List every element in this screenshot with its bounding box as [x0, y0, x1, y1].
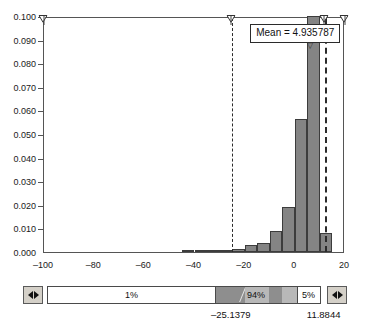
arrow-right-icon: [338, 291, 343, 299]
y-axis: 0.0000.0100.0200.0300.0400.0500.0600.070…: [0, 10, 36, 260]
lower-limit-line[interactable]: [232, 18, 233, 252]
histogram-bar: [270, 231, 283, 252]
arrow-left-icon: [28, 291, 33, 299]
handle-stem: [43, 16, 44, 25]
slider-segment-label: 94%: [247, 290, 265, 301]
handle-right-bound[interactable]: [340, 9, 349, 16]
histogram-bar: [257, 243, 270, 252]
slider-increment-button[interactable]: [327, 286, 347, 304]
histogram-bar: [207, 250, 220, 252]
plot-area[interactable]: [43, 17, 344, 253]
x-tick-label: –40: [186, 260, 201, 270]
slider-segment-divider[interactable]: [297, 287, 298, 303]
y-tick-label: 0.020: [0, 201, 36, 211]
upper-limit-value: 11.8844: [307, 309, 341, 320]
y-tick-label: 0.100: [0, 12, 36, 22]
mean-marker-glyph: ▽: [307, 42, 313, 50]
percentile-slider[interactable]: 1%94%5%: [0, 286, 372, 306]
histogram-bar: [295, 119, 308, 252]
histogram-bar: [245, 245, 258, 252]
limit-values: –25.137911.8844: [0, 309, 372, 325]
histogram-bar: [232, 249, 245, 252]
upper-limit-line[interactable]: [325, 18, 327, 252]
handle-stem: [344, 16, 345, 25]
arrow-right-icon: [34, 291, 39, 299]
slider-segment-label: 5%: [302, 290, 315, 301]
slider-segment-divider[interactable]: [215, 287, 216, 303]
histogram-bar: [220, 250, 233, 252]
lower-limit-value: –25.1379: [211, 309, 251, 320]
histogram-widget: 0.0000.0100.0200.0300.0400.0500.0600.070…: [0, 0, 372, 329]
handle-stem: [231, 16, 232, 25]
slider-decrement-button[interactable]: [23, 286, 43, 304]
histogram-bar: [307, 16, 320, 252]
slider-track[interactable]: 1%94%5%: [47, 286, 321, 304]
mean-callout: Mean = 4.935787: [250, 24, 340, 43]
slider-segment-highlight: [282, 287, 297, 303]
x-tick-label: –80: [86, 260, 101, 270]
x-tick-label: –60: [136, 260, 151, 270]
histogram-bar: [195, 250, 208, 252]
x-tick-label: 20: [339, 260, 349, 270]
y-tick-label: 0.040: [0, 154, 36, 164]
x-tick-label: –100: [33, 260, 53, 270]
handle-left-bound[interactable]: [39, 9, 48, 16]
y-tick-label: 0.030: [0, 177, 36, 187]
y-tick-label: 0.060: [0, 106, 36, 116]
histogram-bar: [182, 250, 195, 252]
x-tick-label: –20: [236, 260, 251, 270]
slider-segment-label: 1%: [125, 290, 138, 301]
y-tick-label: 0.010: [0, 224, 36, 234]
y-tick-label: 0.080: [0, 59, 36, 69]
x-axis: –100–80–60–40–20020: [0, 256, 372, 274]
histogram-bar: [282, 207, 295, 252]
x-tick-label: 0: [291, 260, 296, 270]
y-tick-label: 0.050: [0, 130, 36, 140]
y-tick-label: 0.090: [0, 36, 36, 46]
arrow-left-icon: [332, 291, 337, 299]
y-tick-label: 0.070: [0, 83, 36, 93]
handle-lower-limit[interactable]: [226, 9, 235, 16]
handle-upper-limit[interactable]: [319, 9, 328, 16]
